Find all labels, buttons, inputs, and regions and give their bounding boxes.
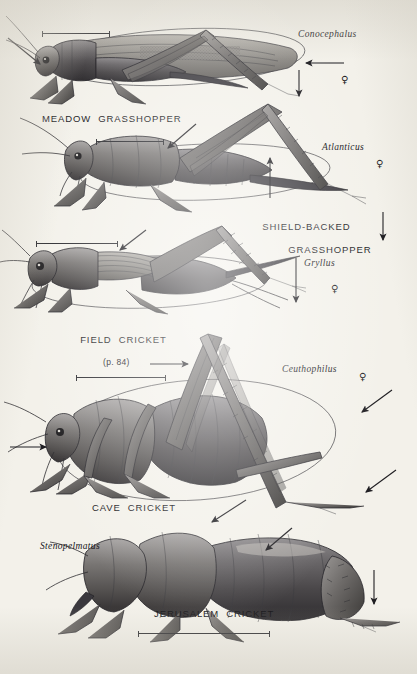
genus-label-gryllus: Gryllus [304, 258, 335, 268]
genus-label-atlanticus: Atlanticus [322, 142, 364, 152]
label-shield-line2: GRASSHOPPER [262, 244, 371, 256]
genus-label-stenopelmatus: Stenopelmatus [40, 541, 100, 551]
label-meadow-grasshopper: MEADOW GRASSHOPPER [42, 113, 182, 125]
label-jerusalem-cricket: JERUSALEM CRICKET [154, 608, 274, 620]
scale-bar-meadow [42, 30, 110, 37]
label-field-cricket: FIELD CRICKET (p. 84) [66, 322, 167, 391]
genus-label-conocephalus: Conocephalus [298, 29, 357, 39]
sex-symbol-atlanticus: ♀ [376, 159, 383, 169]
illustration-plate: MEADOW GRASSHOPPER SHIELD-BACKED GRASSHO… [0, 0, 417, 674]
genus-label-ceuthophilus: Ceuthophilus [282, 364, 337, 374]
sex-symbol-conocephalus: ♀ [341, 75, 348, 85]
insect-artwork [0, 0, 417, 674]
label-cave-cricket: CAVE CRICKET [92, 502, 176, 514]
label-field-line1: FIELD CRICKET [80, 334, 167, 345]
figure-cave-cricket [4, 334, 364, 514]
sex-symbol-gryllus: ♀ [331, 284, 338, 294]
label-field-page-ref: (p. 84) [66, 357, 167, 369]
scale-bar-shield [96, 138, 164, 145]
label-shield-line1: SHIELD-BACKED [262, 221, 350, 232]
sex-symbol-ceuthophilus: ♀ [359, 372, 366, 382]
scale-bar-field [36, 240, 118, 247]
scale-bar-jerusalem [138, 630, 270, 637]
